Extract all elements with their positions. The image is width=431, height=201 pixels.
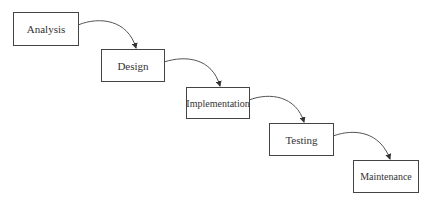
stage-label: Implementation	[186, 98, 249, 109]
arrow-implementation-to-testing	[249, 96, 304, 122]
stage-label: Analysis	[27, 23, 66, 35]
stage-testing: Testing	[269, 123, 334, 156]
stage-design: Design	[101, 49, 165, 82]
stage-label: Testing	[285, 134, 317, 146]
stage-label: Maintenance	[360, 171, 412, 182]
arrow-testing-to-maintenance	[333, 132, 390, 159]
stage-implementation: Implementation	[186, 87, 250, 119]
waterfall-diagram: Analysis Design Implementation Testing M…	[0, 0, 431, 201]
arrow-analysis-to-design	[78, 21, 136, 48]
arrow-design-to-implementation	[164, 59, 220, 86]
stage-maintenance: Maintenance	[353, 160, 419, 193]
stage-label: Design	[117, 60, 148, 72]
stage-analysis: Analysis	[13, 12, 79, 46]
